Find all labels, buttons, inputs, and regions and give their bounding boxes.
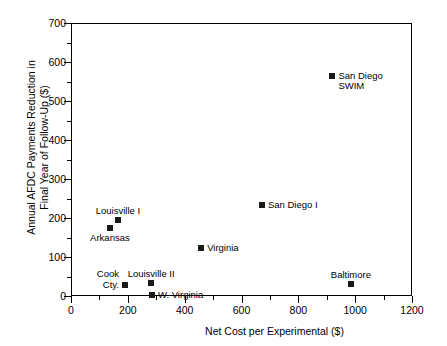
y-tick-label: 500 bbox=[48, 96, 66, 107]
y-tick-label: 600 bbox=[48, 57, 66, 68]
data-point-label: San DiegoSWIM bbox=[338, 71, 382, 92]
x-tick-minor bbox=[327, 296, 328, 300]
x-tick-major bbox=[242, 296, 243, 303]
x-tick-major bbox=[298, 296, 299, 303]
y-tick-minor bbox=[67, 277, 71, 278]
x-tick-label: 600 bbox=[233, 305, 251, 316]
x-axis-title-text: Net Cost per Experimental ($) bbox=[205, 325, 344, 337]
data-point-label-line1: Virginia bbox=[207, 243, 239, 254]
data-point-marker bbox=[259, 202, 265, 208]
y-tick-label: 100 bbox=[48, 252, 66, 263]
y-tick-minor bbox=[67, 43, 71, 44]
x-tick-minor bbox=[99, 296, 100, 300]
y-tick-minor bbox=[67, 82, 71, 83]
data-point-label-line2: Cty. bbox=[97, 280, 119, 291]
y-tick-label: 400 bbox=[48, 135, 66, 146]
y-axis-title-line2: Final Year of Follow-Up ($) bbox=[37, 23, 50, 273]
plot-area bbox=[71, 23, 412, 296]
data-point-label: San Diego I bbox=[268, 200, 318, 211]
x-tick-major bbox=[128, 296, 129, 303]
data-point-label: Louisville I bbox=[96, 206, 140, 217]
data-point-marker bbox=[148, 280, 154, 286]
y-tick-minor bbox=[67, 121, 71, 122]
y-tick-label: 200 bbox=[48, 213, 66, 224]
data-point-label-line2: SWIM bbox=[338, 81, 382, 92]
data-point-marker bbox=[107, 225, 113, 231]
y-axis-title: Annual AFDC Payments Reduction in Final … bbox=[25, 23, 50, 273]
y-tick-minor bbox=[67, 238, 71, 239]
data-point-marker bbox=[329, 73, 335, 79]
y-tick-label: 300 bbox=[48, 174, 66, 185]
data-point-label-line1: San Diego I bbox=[268, 200, 318, 211]
data-point-label: Baltimore bbox=[331, 270, 371, 281]
x-tick-label: 1200 bbox=[400, 305, 423, 316]
x-tick-label: 400 bbox=[176, 305, 194, 316]
scatter-chart-figure: 0100200300400500600700020040060080010001… bbox=[0, 0, 447, 346]
data-point-marker bbox=[149, 292, 155, 298]
data-point-label: Virginia bbox=[207, 243, 239, 254]
data-point-label-line1: W. Virginia bbox=[158, 290, 203, 301]
y-tick-label: 0 bbox=[60, 291, 66, 302]
x-tick-minor bbox=[213, 296, 214, 300]
x-tick-major bbox=[412, 296, 413, 303]
x-tick-minor bbox=[270, 296, 271, 300]
data-point-marker bbox=[115, 217, 121, 223]
x-tick-label: 1000 bbox=[343, 305, 366, 316]
y-tick-minor bbox=[67, 199, 71, 200]
data-point-label: W. Virginia bbox=[158, 290, 203, 301]
y-tick-minor bbox=[67, 160, 71, 161]
x-tick-major bbox=[71, 296, 72, 303]
data-point-marker bbox=[122, 282, 128, 288]
x-tick-minor bbox=[384, 296, 385, 300]
x-axis-title: Net Cost per Experimental ($) bbox=[0, 325, 447, 337]
x-tick-label: 800 bbox=[290, 305, 308, 316]
data-point-label: Arkansas bbox=[90, 233, 130, 244]
x-tick-major bbox=[355, 296, 356, 303]
data-point-marker bbox=[348, 281, 354, 287]
y-tick-label: 700 bbox=[48, 18, 66, 29]
data-point-label-line1: Louisville I bbox=[96, 206, 140, 217]
data-point-marker bbox=[198, 245, 204, 251]
data-point-label: CookCty. bbox=[97, 269, 119, 290]
data-point-label-line1: Baltimore bbox=[331, 270, 371, 281]
x-tick-label: 0 bbox=[68, 305, 74, 316]
data-point-label: Louisville II bbox=[128, 269, 175, 280]
data-point-label-line1: Louisville II bbox=[128, 269, 175, 280]
data-point-label-line1: Arkansas bbox=[90, 233, 130, 244]
x-tick-label: 200 bbox=[119, 305, 137, 316]
y-axis-title-line1: Annual AFDC Payments Reduction in bbox=[25, 23, 38, 273]
data-point-label-line1: Cook bbox=[97, 269, 119, 280]
